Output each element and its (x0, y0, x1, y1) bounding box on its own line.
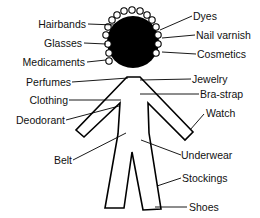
label-clothing: Clothing (29, 94, 68, 106)
body-diagram: Hairbands Glasses Medicaments Perfumes C… (0, 0, 260, 218)
label-hairbands: Hairbands (38, 18, 86, 30)
label-bra-strap: Bra-strap (200, 88, 243, 100)
head-icon (103, 7, 161, 68)
label-belt: Belt (54, 154, 72, 166)
label-cosmetics: Cosmetics (197, 48, 246, 60)
label-shoes: Shoes (189, 201, 219, 213)
label-nail-varnish: Nail varnish (196, 29, 251, 41)
label-underwear: Underwear (181, 149, 232, 161)
label-deodorant: Deodorant (16, 114, 65, 126)
label-glasses: Glasses (44, 37, 82, 49)
label-jewelry: Jewelry (192, 73, 228, 85)
label-stockings: Stockings (182, 172, 228, 184)
label-medicaments: Medicaments (23, 56, 85, 68)
label-watch: Watch (206, 107, 235, 119)
body-outline (76, 77, 193, 210)
label-perfumes: Perfumes (26, 76, 71, 88)
label-dyes: Dyes (193, 10, 217, 22)
